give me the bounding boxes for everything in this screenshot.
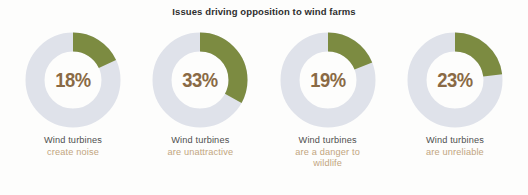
donut-label-line1: Wind turbines (266, 135, 390, 147)
donut-label-2: Wind turbines are unattractive (138, 135, 262, 158)
donut-chart-row: 18% Wind turbines create noise 33% Wind … (0, 32, 528, 192)
donut-chart-item: 19% Wind turbines are a danger to wildli… (271, 32, 385, 170)
donut-value-3: 19% (283, 32, 371, 128)
donut-chart-3: 19% (280, 32, 376, 128)
donut-value-2: 33% (156, 32, 244, 128)
donut-label-3: Wind turbines are a danger to wildlife (266, 135, 390, 170)
infographic-figure: Issues driving opposition to wind farms … (0, 0, 528, 195)
donut-label-4: Wind turbines are unreliable (393, 135, 517, 158)
donut-label-line2: are a danger to (266, 147, 390, 159)
donut-label-line1: Wind turbines (11, 135, 135, 147)
donut-label-line3: wildlife (266, 158, 390, 170)
donut-chart-2: 33% (152, 32, 248, 128)
chart-title: Issues driving opposition to wind farms (0, 6, 528, 17)
donut-label-1: Wind turbines create noise (11, 135, 135, 158)
donut-chart-item: 23% Wind turbines are unreliable (398, 32, 512, 158)
donut-chart-item: 18% Wind turbines create noise (16, 32, 130, 158)
donut-label-line1: Wind turbines (393, 135, 517, 147)
donut-chart-item: 33% Wind turbines are unattractive (143, 32, 257, 158)
donut-value-4: 23% (411, 32, 499, 128)
donut-label-line2: are unattractive (138, 147, 262, 159)
donut-value-1: 18% (29, 32, 117, 128)
donut-chart-1: 18% (25, 32, 121, 128)
donut-label-line1: Wind turbines (138, 135, 262, 147)
donut-chart-4: 23% (407, 32, 503, 128)
donut-label-line2: create noise (11, 147, 135, 159)
donut-label-line2: are unreliable (393, 147, 517, 159)
